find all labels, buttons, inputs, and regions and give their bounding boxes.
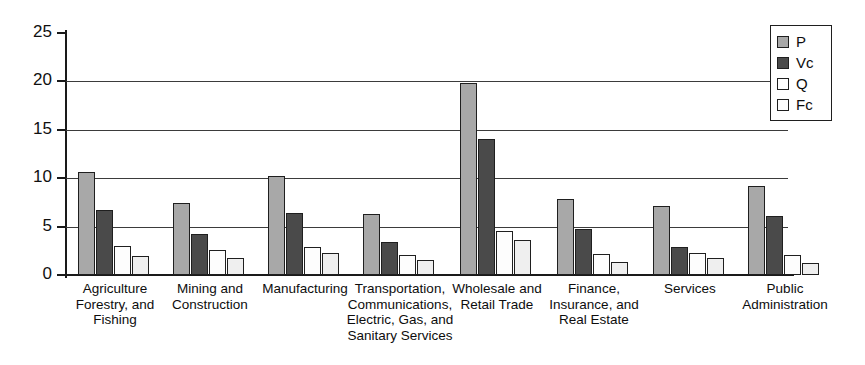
bar-group <box>460 33 532 275</box>
bar-fc <box>417 260 434 275</box>
category-label-line: Sanitary Services <box>330 328 470 344</box>
category-label-line: Electric, Gas, and <box>330 312 470 328</box>
bar-group <box>173 33 245 275</box>
bar-chart: 0510152025 AgricultureForestry, andFishi… <box>0 0 865 365</box>
category-label-line: Construction <box>155 297 265 313</box>
bar-vc <box>766 216 783 275</box>
bar-q <box>209 250 226 275</box>
legend-label: P <box>796 34 806 50</box>
tick-mark <box>57 32 66 34</box>
legend-label: Q <box>796 76 808 92</box>
category-label-line: Fishing <box>55 312 175 328</box>
plot-area <box>66 33 788 275</box>
tick-mark <box>57 274 66 276</box>
bar-vc <box>671 247 688 275</box>
bar-q <box>114 246 131 275</box>
bar-fc <box>611 262 628 275</box>
chart-legend: PVcQFc <box>770 25 832 121</box>
bar-vc <box>575 229 592 275</box>
bar-p <box>78 172 95 275</box>
bar-vc <box>96 210 113 275</box>
bar-fc <box>707 258 724 275</box>
bar-fc <box>802 263 819 275</box>
bar-q <box>399 255 416 275</box>
y-axis-tick-label: 15 <box>0 119 52 139</box>
category-label-line: Administration <box>725 297 845 313</box>
bar-p <box>748 186 765 275</box>
y-axis-tick-label: 25 <box>0 22 52 42</box>
legend-item-p[interactable]: P <box>777 31 824 52</box>
bar-p <box>363 214 380 275</box>
bar-fc <box>322 253 339 275</box>
bar-group <box>78 33 150 275</box>
category-label-line: Insurance, and <box>534 297 654 313</box>
bar-group <box>363 33 435 275</box>
y-axis-tick-label: 20 <box>0 70 52 90</box>
bar-fc <box>227 258 244 275</box>
bar-group <box>268 33 340 275</box>
tick-mark <box>57 80 66 82</box>
legend-swatch-icon <box>777 99 789 111</box>
category-label: PublicAdministration <box>725 281 845 312</box>
bar-fc <box>132 256 149 275</box>
bar-p <box>173 203 190 275</box>
category-label-line: Public <box>725 281 845 297</box>
bar-vc <box>286 213 303 275</box>
legend-swatch-icon <box>777 57 789 69</box>
legend-label: Fc <box>796 97 813 113</box>
bar-fc <box>514 240 531 275</box>
bar-q <box>304 247 321 275</box>
bar-group <box>653 33 725 275</box>
category-label-line: Real Estate <box>534 312 654 328</box>
bar-vc <box>381 242 398 275</box>
tick-mark <box>57 129 66 131</box>
bar-vc <box>191 234 208 275</box>
y-axis-tick-label: 5 <box>0 216 52 236</box>
legend-item-vc[interactable]: Vc <box>777 52 824 73</box>
bar-q <box>496 231 513 275</box>
legend-label: Vc <box>796 55 814 71</box>
bar-q <box>593 254 610 275</box>
y-axis-tick-label: 10 <box>0 167 52 187</box>
bar-p <box>268 176 285 275</box>
y-axis-tick-label: 0 <box>0 264 52 284</box>
tick-mark <box>57 226 66 228</box>
legend-swatch-icon <box>777 36 789 48</box>
bar-q <box>784 255 801 275</box>
bar-p <box>460 83 477 275</box>
bar-vc <box>478 139 495 275</box>
legend-item-q[interactable]: Q <box>777 73 824 94</box>
bar-group <box>557 33 629 275</box>
bar-p <box>557 199 574 275</box>
bar-p <box>653 206 670 275</box>
legend-swatch-icon <box>777 78 789 90</box>
bar-q <box>689 253 706 275</box>
legend-item-fc[interactable]: Fc <box>777 94 824 115</box>
tick-mark <box>57 177 66 179</box>
